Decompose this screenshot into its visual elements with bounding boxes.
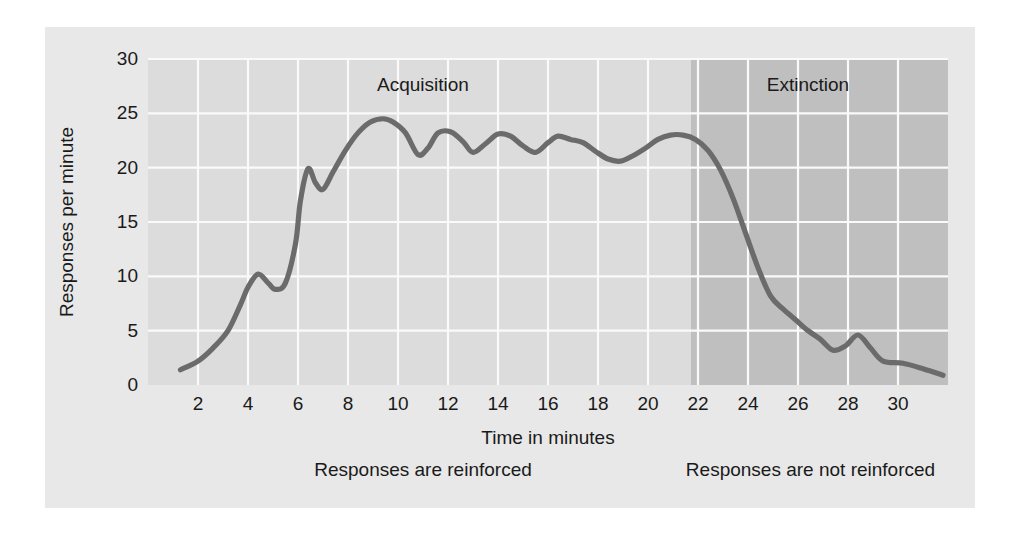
x-tick-label: 28	[837, 393, 858, 415]
x-tick-label: 16	[537, 393, 558, 415]
y-axis-ticks: 051015202530	[90, 59, 138, 385]
x-tick-label: 24	[737, 393, 758, 415]
plot-area: Acquisition Extinction	[148, 59, 948, 385]
x-tick-label: 4	[243, 393, 254, 415]
x-tick-label: 20	[637, 393, 658, 415]
annotation-acquisition: Acquisition	[377, 74, 469, 96]
footnote-not-reinforced: Responses are not reinforced	[686, 459, 935, 481]
x-tick-label: 10	[387, 393, 408, 415]
response-curve	[181, 119, 944, 375]
y-tick-label: 15	[117, 211, 138, 233]
y-tick-label: 10	[117, 265, 138, 287]
x-tick-label: 30	[887, 393, 908, 415]
y-tick-label: 30	[117, 48, 138, 70]
response-curve-layer	[148, 59, 948, 385]
x-tick-label: 12	[437, 393, 458, 415]
x-axis-ticks: 24681012141618202224262830	[148, 393, 948, 421]
x-tick-label: 6	[293, 393, 304, 415]
y-tick-label: 20	[117, 157, 138, 179]
footnote-reinforced: Responses are reinforced	[314, 459, 532, 481]
x-tick-label: 18	[587, 393, 608, 415]
x-tick-label: 22	[687, 393, 708, 415]
x-tick-label: 14	[487, 393, 508, 415]
x-tick-label: 26	[787, 393, 808, 415]
y-axis-title: Responses per minute	[56, 92, 78, 352]
y-tick-label: 25	[117, 102, 138, 124]
x-tick-label: 2	[193, 393, 204, 415]
x-axis-title: Time in minutes	[148, 427, 948, 449]
y-tick-label: 5	[127, 320, 138, 342]
annotation-extinction: Extinction	[767, 74, 849, 96]
y-tick-label: 0	[127, 374, 138, 396]
chart-figure: Acquisition Extinction 051015202530 2468…	[45, 27, 975, 508]
x-tick-label: 8	[343, 393, 354, 415]
